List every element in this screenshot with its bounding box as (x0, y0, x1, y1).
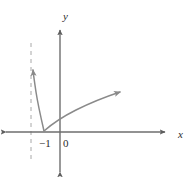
x-tick-label-zero: 0 (63, 138, 69, 149)
curve-left-branch (33, 70, 44, 131)
coordinate-plot (0, 0, 190, 187)
x-tick-label-neg-one: −1 (39, 138, 51, 149)
graph-figure: y x −1 0 (0, 0, 190, 187)
x-axis-label: x (178, 129, 183, 140)
curve-right-branch (44, 92, 120, 131)
y-axis-label: y (63, 11, 68, 22)
